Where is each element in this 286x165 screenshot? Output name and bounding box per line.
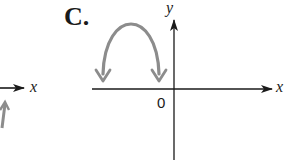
x-axis-label: x bbox=[276, 79, 283, 95]
parabola-curve bbox=[103, 24, 159, 74]
y-axis-label: y bbox=[166, 0, 173, 16]
left-x-axis-label: x bbox=[30, 79, 37, 95]
coordinate-axes bbox=[92, 20, 272, 160]
graph-figure bbox=[0, 0, 286, 165]
left-partial-graph bbox=[0, 88, 24, 128]
option-label: C. bbox=[64, 4, 89, 30]
origin-label: 0 bbox=[157, 95, 165, 110]
